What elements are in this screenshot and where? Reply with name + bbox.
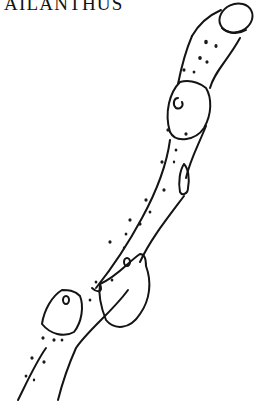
twig-illustration <box>0 0 280 409</box>
leaf-scar-lower <box>42 284 101 335</box>
lenticels <box>25 40 218 382</box>
leaf-scar-middle <box>99 254 149 327</box>
bud-right <box>179 164 189 194</box>
twig-tip <box>192 0 257 38</box>
